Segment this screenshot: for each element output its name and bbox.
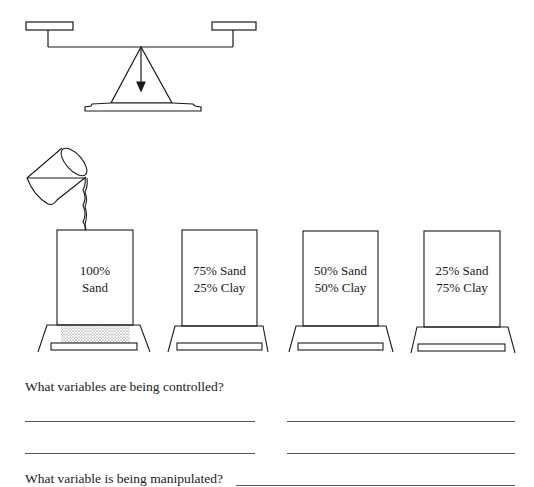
balance-base: [85, 103, 201, 111]
answer-line-controlled-1[interactable]: [25, 421, 255, 422]
question-manipulated: What variable is being manipulated?: [25, 471, 223, 487]
container-label: 100% Sand: [57, 262, 133, 296]
container-label: 25% Sand 75% Clay: [424, 262, 500, 296]
down-arrow-icon: [137, 82, 145, 91]
sand-layer: [61, 326, 130, 343]
answer-line-controlled-4[interactable]: [287, 453, 515, 454]
answer-line-controlled-3[interactable]: [25, 453, 255, 454]
answer-line-controlled-2[interactable]: [287, 421, 515, 422]
tray: [418, 344, 505, 351]
container-label-line2: 25% Clay: [182, 279, 257, 296]
container-label: 50% Sand 50% Clay: [303, 262, 378, 296]
container-label-line2: Sand: [57, 279, 133, 296]
container-label-line1: 75% Sand: [182, 262, 257, 279]
container-label-line1: 25% Sand: [424, 262, 500, 279]
question-controlled: What variables are being controlled?: [25, 379, 224, 395]
left-pan: [26, 22, 73, 30]
balance-scale-icon: [26, 22, 256, 111]
container-label: 75% Sand 25% Clay: [182, 262, 257, 296]
container-label-line1: 100%: [57, 262, 133, 279]
tray: [51, 343, 137, 350]
experiment-illustration: [0, 0, 534, 487]
container-label-line1: 50% Sand: [303, 262, 378, 279]
container-label-line2: 50% Clay: [303, 279, 378, 296]
right-pan: [212, 22, 256, 30]
container-label-line2: 75% Clay: [424, 279, 500, 296]
tray: [298, 343, 383, 350]
pouring-beaker-icon: [27, 144, 91, 230]
tray: [177, 343, 262, 350]
answer-line-manipulated[interactable]: [236, 485, 515, 486]
